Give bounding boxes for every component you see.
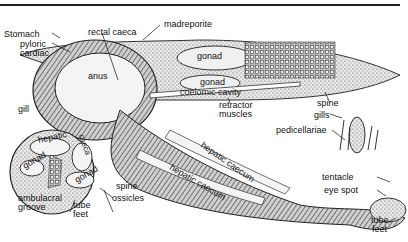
label-feet-tip: feet bbox=[372, 225, 387, 234]
label-coelomic-cavity: coelomic cavity bbox=[180, 88, 241, 97]
label-ossicles: ossicles bbox=[112, 194, 144, 203]
label-eye-spot: eye spot bbox=[324, 186, 358, 195]
label-spine-xs: spine bbox=[116, 182, 138, 191]
label-gonad-upper: gonad bbox=[197, 52, 222, 61]
label-muscles: muscles bbox=[219, 110, 252, 119]
label-gonad-middle: gonad bbox=[200, 78, 225, 87]
label-pedicellariae: pedicellariae bbox=[276, 126, 327, 135]
label-gill: gill bbox=[18, 105, 29, 114]
tube-foot-rows-upper bbox=[245, 42, 335, 78]
sea-star-anatomy-diagram: Stomach pyloric cardiac rectal caeca mad… bbox=[0, 0, 408, 242]
label-stomach: Stomach bbox=[4, 30, 40, 39]
anatomy-illustration bbox=[0, 0, 408, 242]
label-anus: anus bbox=[88, 72, 108, 81]
xs-ambulacral bbox=[48, 155, 62, 188]
spine-detail bbox=[349, 117, 365, 153]
label-feet-xs: feet bbox=[73, 210, 88, 219]
label-spine: spine bbox=[317, 99, 339, 108]
label-cardiac: cardiac bbox=[20, 49, 49, 58]
label-gills: gills bbox=[314, 111, 330, 120]
label-rectal-caeca: rectal caeca bbox=[88, 28, 137, 37]
stomach bbox=[55, 53, 145, 123]
label-groove: groove bbox=[18, 203, 46, 212]
label-tentacle: tentacle bbox=[322, 173, 354, 182]
label-madreporite: madreporite bbox=[164, 20, 212, 29]
